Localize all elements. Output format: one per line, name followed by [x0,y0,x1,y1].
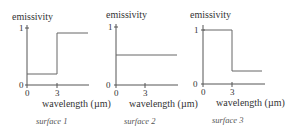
y-axis-label: emissivity [12,11,53,22]
y-tick-label-0: 0 [193,79,198,89]
emissivity-figure: emissivity 1 0 0 3 wavelength (µm) surfa… [0,0,291,135]
y-tick-label-0: 0 [19,80,24,90]
panel-surface-2: emissivity 1 0 0 3 wavelength (µm) surfa… [106,9,198,126]
x-tick-label-3: 3 [230,87,235,97]
y-axis-label: emissivity [190,9,231,20]
x-tick-label-3: 3 [55,88,60,98]
panel-caption: surface 3 [212,115,243,125]
x-tick-label-0: 0 [25,88,30,98]
panel-surface-1: emissivity 1 0 0 3 wavelength (µm) surfa… [12,11,111,126]
x-tick-label-0: 0 [114,88,119,98]
y-axis-label: emissivity [106,9,147,20]
x-axis-label: wavelength (µm) [129,98,198,110]
y-tick-label-1: 1 [108,22,113,32]
x-axis-label: wavelength (µm) [42,98,111,110]
panel-surface-3: emissivity 1 0 0 3 wavelength (µm) surfa… [190,9,285,125]
x-tick-label-0: 0 [201,87,206,97]
x-axis-label: wavelength (µm) [216,97,285,109]
emissivity-curve [203,30,262,71]
y-tick-label-1: 1 [19,23,24,33]
x-tick-label-3: 3 [143,88,148,98]
panel-caption: surface 2 [124,116,156,126]
y-tick-label-1: 1 [194,25,199,35]
emissivity-curve [27,33,88,74]
y-tick-label-0: 0 [106,80,111,90]
panel-caption: surface 1 [36,116,67,126]
